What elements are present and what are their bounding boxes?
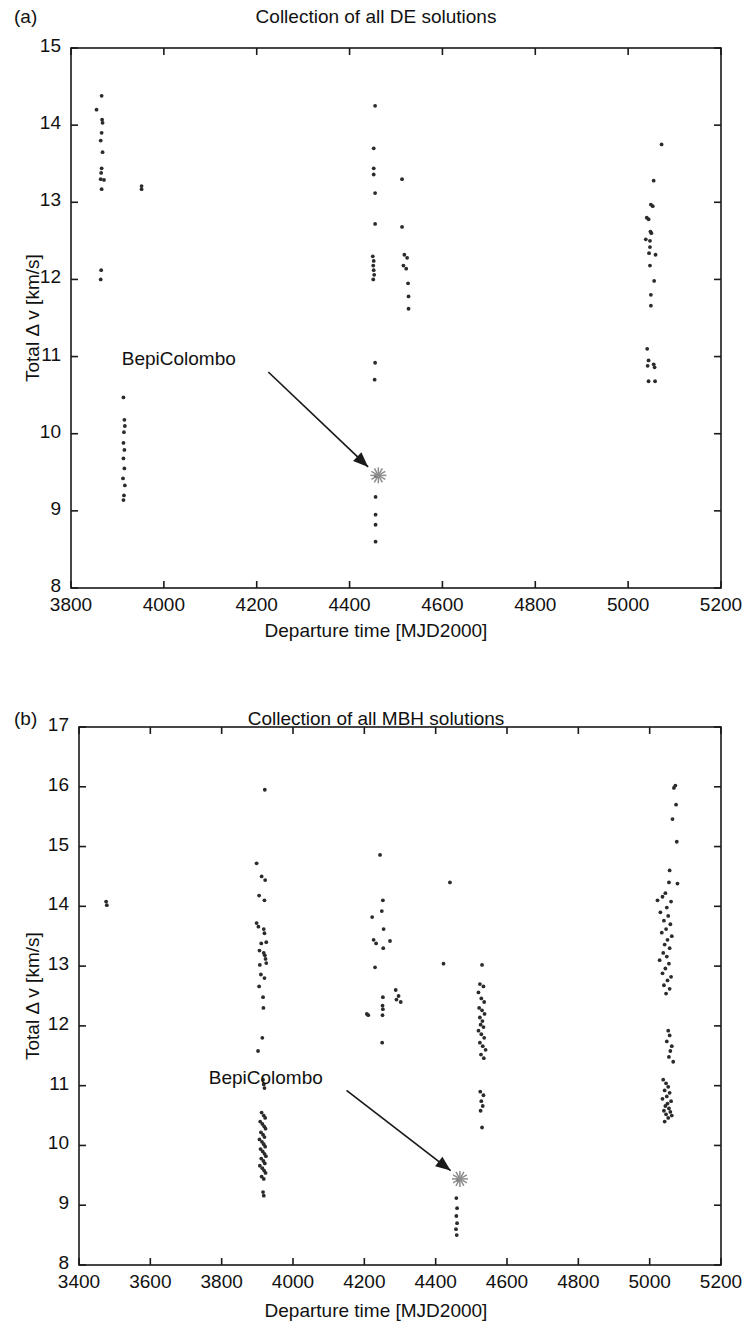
panel-b-data-point [670,1044,674,1048]
panel-b-data-point [661,951,665,955]
panel-b-data-point [658,958,662,962]
panel-b-data-point [660,931,664,935]
panel-a-data-point [404,267,408,271]
panel-b-data-point [668,1110,672,1114]
panel-a-data-point [372,146,376,150]
panel-b-data-point [664,1081,668,1085]
panel-b-data-point [670,934,674,938]
panel-b-x-tick-label: 5200 [681,1271,752,1293]
panel-b-data-point [455,1221,459,1225]
panel-b-y-tick-label: 11 [5,1073,69,1095]
panel-a-x-tick-label: 4800 [495,594,575,616]
panel-b-data-point [668,987,672,991]
panel-b-data-point [482,1000,486,1004]
panel-a-data-point [374,540,378,544]
panel-a-axes-frame [71,48,721,588]
panel-b-data-point [670,1114,674,1118]
panel-a-data-point [122,430,126,434]
panel-b-data-point [263,1135,267,1139]
panel-b-data-point [262,1194,266,1198]
panel-a-data-point [100,187,104,191]
panel-b-data-point [381,995,385,999]
panel-b-data-point [259,941,263,945]
panel-a-data-point [372,273,376,277]
panel-b-y-tick-label: 9 [5,1192,69,1214]
panel-a-data-point [122,441,126,445]
panel-a-data-point [649,293,653,297]
panel-b-data-point [479,996,483,1000]
panel-a-data-point [400,177,404,181]
panel-b-data-point [260,875,264,879]
panel-a-y-tick-label: 9 [0,498,61,520]
panel-b-data-point [663,943,667,947]
panel-a-data-point [373,191,377,195]
panel-b-data-point [666,979,670,983]
panel-b-data-point [668,922,672,926]
panel-a-data-point [371,278,375,282]
panel-b-data-point [667,881,671,885]
panel-a-data-point [405,256,409,260]
panel-b-data-point [395,998,399,1002]
panel-b-data-point [454,1227,458,1231]
panel-b-data-point [455,1233,459,1237]
panel-a-data-point [653,365,657,369]
panel-a-data-point [647,359,651,363]
panel-b-data-point [264,1171,268,1175]
panel-b-data-point [665,1095,669,1099]
panel-b-data-point [480,1008,484,1012]
panel-a-data-point [122,418,126,422]
panel-a-data-point [101,150,105,154]
panel-a-data-point [648,245,652,249]
panel-b-data-point [259,973,263,977]
panel-a-x-axis-title: Departure time [MJD2000] [0,620,752,642]
panel-b-data-point [663,1089,667,1093]
panel-a-annotation-label: BepiColombo [122,348,236,370]
panel-a-y-tick-label: 10 [0,421,61,443]
panel-b-data-point [669,900,673,904]
panel-b-data-point [667,1055,671,1059]
panel-b-data-point [262,927,266,931]
panel-b-data-point [666,914,670,918]
panel-b-data-point [479,1109,483,1113]
panel-a-data-point [122,396,126,400]
panel-b-data-point [448,881,452,885]
panel-b-x-tick-label: 3800 [182,1271,262,1293]
panel-b-data-point [667,1106,671,1110]
panel-b-data-point [370,915,374,919]
panel-b-data-point [264,1127,268,1131]
panel-b-data-point [662,919,666,923]
panel-b-data-point [260,1036,264,1040]
panel-a-data-point [99,268,103,272]
panel-b-data-point [668,1091,672,1095]
panel-b-data-point [263,1161,267,1165]
panel-a-data-point [101,121,105,125]
panel-b-y-axis-title: Total Δ v [km/s] [22,932,44,1060]
panel-b-y-tick-label: 15 [5,834,69,856]
panel-b-data-point [264,957,268,961]
panel-a-data-point [406,281,410,285]
panel-b-x-tick-label: 4600 [467,1271,547,1293]
panel-a-data-point [372,259,376,263]
panel-b-data-point [665,955,669,959]
panel-b-data-point [482,1036,486,1040]
panel-a-y-tick-label: 14 [0,112,61,134]
panel-b-data-point [455,1206,459,1210]
panel-b-data-point [479,1099,483,1103]
panel-b-data-point [381,1013,385,1017]
panel-b-data-point [483,1012,487,1016]
panel-b-y-tick-label: 12 [5,1013,69,1035]
panel-b-data-point [478,1041,482,1045]
panel-b-data-point [263,1145,267,1149]
panel-a-data-point [648,239,652,243]
panel-a-data-point [123,424,127,428]
panel-b-data-point [671,817,675,821]
panel-a-data-point [407,307,411,311]
panel-b-data-point [664,992,668,996]
panel-a-x-tick-label: 3800 [31,594,111,616]
panel-b-data-point [669,1099,673,1103]
panel-b-data-point [672,786,676,790]
panel-b-annotation-arrow-line [347,1090,451,1170]
panel-b-data-point [373,965,377,969]
panel-b-data-point [381,1007,385,1011]
panel-b-data-point [482,1093,486,1097]
